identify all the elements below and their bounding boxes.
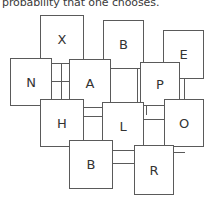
connector-P-L xyxy=(146,105,147,115)
node-label-e: E xyxy=(179,48,187,61)
connector-N-H xyxy=(61,75,62,100)
node-box-x[interactable]: X xyxy=(40,15,84,64)
node-link-diagram: XBENAPHLOBR xyxy=(0,0,211,199)
connector-H-L xyxy=(83,116,103,117)
connector-B1-P xyxy=(137,68,138,103)
connector-E-O xyxy=(184,78,185,100)
node-box-o[interactable]: O xyxy=(164,99,204,147)
connector-L-O xyxy=(143,119,165,120)
node-label-r: R xyxy=(149,164,158,177)
node-box-r[interactable]: R xyxy=(134,145,174,195)
node-label-b2: B xyxy=(87,158,96,171)
node-label-a: A xyxy=(86,77,95,90)
node-label-l: L xyxy=(119,120,126,133)
connector-B2-R xyxy=(112,163,135,164)
node-label-p: P xyxy=(156,78,164,91)
node-label-x: X xyxy=(58,33,67,46)
node-label-b1: B xyxy=(119,38,128,51)
node-label-h: H xyxy=(57,117,67,130)
node-label-o: O xyxy=(179,117,189,130)
connector-O-R xyxy=(173,152,185,153)
node-label-n: N xyxy=(26,76,36,89)
diagram-page: probability that one chooses. XBENAPHLOB… xyxy=(0,0,211,199)
node-box-b2[interactable]: B xyxy=(69,140,113,189)
